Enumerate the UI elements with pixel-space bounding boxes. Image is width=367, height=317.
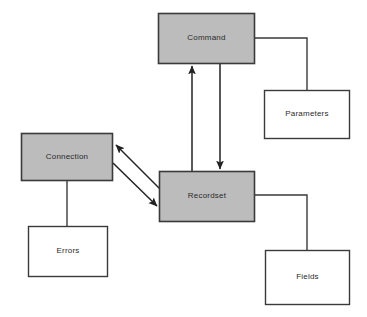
connector-connection-to-recordset bbox=[113, 163, 157, 206]
node-fields[interactable] bbox=[266, 251, 350, 305]
node-errors[interactable] bbox=[29, 227, 108, 277]
diagram-graphics bbox=[0, 0, 367, 317]
connector-recordset-to-fields bbox=[255, 195, 307, 250]
node-recordset[interactable] bbox=[160, 172, 255, 222]
connector-command-to-parameters bbox=[255, 38, 307, 90]
node-command[interactable] bbox=[159, 14, 255, 64]
diagram-canvas: Command Parameters Connection Recordset … bbox=[0, 0, 367, 317]
node-connection[interactable] bbox=[22, 134, 113, 181]
connector-recordset-to-connection bbox=[116, 145, 163, 192]
node-parameters[interactable] bbox=[265, 91, 350, 139]
